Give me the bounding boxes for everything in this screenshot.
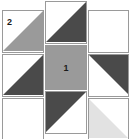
- plain-patch-fill: [89, 11, 128, 52]
- patch-middle-top[interactable]: [45, 1, 87, 44]
- half-square-triangle-icon: [89, 55, 128, 94]
- left-column: 2: [2, 10, 44, 137]
- plain-patch-fill: [3, 99, 43, 139]
- half-square-triangle-icon: [3, 11, 43, 51]
- half-square-triangle-icon: [46, 92, 86, 132]
- patch-right-top[interactable]: [88, 10, 129, 53]
- right-column: [88, 10, 129, 137]
- patch-left-top[interactable]: 2: [2, 10, 44, 53]
- patch-right-middle[interactable]: [88, 54, 129, 97]
- patch-middle-bottom[interactable]: [45, 91, 87, 134]
- middle-column: 1: [45, 1, 87, 138]
- patch-right-bottom[interactable]: [88, 98, 129, 139]
- solid-patch-fill: [46, 46, 86, 89]
- half-square-triangle-icon: [89, 99, 128, 138]
- half-square-triangle-icon: [3, 55, 43, 95]
- half-square-triangle-icon: [46, 2, 86, 42]
- patch-left-middle[interactable]: [2, 54, 44, 97]
- quilt-block-diagram: 2 1: [0, 0, 131, 139]
- patch-middle-center[interactable]: 1: [45, 45, 87, 90]
- patch-left-bottom[interactable]: [2, 98, 44, 139]
